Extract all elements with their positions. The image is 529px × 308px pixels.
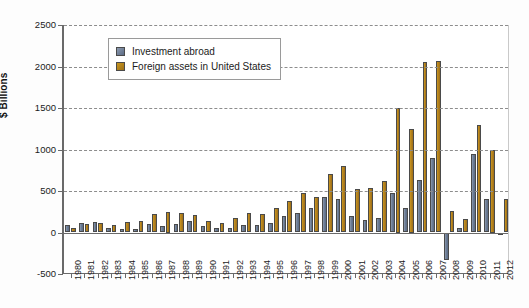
y-tick-label: 2000 <box>22 62 56 72</box>
y-tick-mark <box>58 274 63 275</box>
bar <box>93 222 98 233</box>
bar <box>484 199 489 232</box>
x-tick-label: 1983 <box>113 260 123 280</box>
bar <box>368 188 373 233</box>
x-tick-mark <box>179 273 180 278</box>
x-tick-label: 1996 <box>289 260 299 280</box>
x-tick-label: 2011 <box>492 261 502 280</box>
x-tick-mark <box>125 273 126 278</box>
x-tick-label: 2008 <box>451 260 461 280</box>
bar <box>309 208 314 233</box>
bar <box>201 226 206 233</box>
gridline <box>64 191 508 192</box>
legend-swatch-icon <box>116 47 125 56</box>
bar <box>328 174 333 232</box>
x-tick-label: 2007 <box>438 260 448 280</box>
x-tick-mark <box>152 273 153 278</box>
bar <box>363 220 368 232</box>
bar <box>423 62 428 233</box>
x-tick-label: 1981 <box>86 260 96 280</box>
x-tick-mark <box>368 273 369 278</box>
bar <box>390 193 395 233</box>
legend-label: Investment abroad <box>132 46 215 57</box>
bar <box>147 224 152 232</box>
bar <box>477 125 482 232</box>
y-tick-label: 1500 <box>22 103 56 113</box>
x-tick-label: 2003 <box>384 260 394 280</box>
bar <box>336 199 341 232</box>
x-tick-mark <box>233 273 234 278</box>
x-tick-mark <box>301 273 302 278</box>
x-tick-mark <box>463 273 464 278</box>
bar <box>255 225 260 233</box>
bar <box>179 213 184 232</box>
x-tick-label: 1987 <box>167 260 177 280</box>
bar <box>463 219 468 232</box>
bar <box>436 61 441 233</box>
x-tick-mark <box>341 273 342 278</box>
bar <box>396 108 401 233</box>
bar <box>85 224 90 232</box>
bar <box>220 223 225 232</box>
bar <box>260 214 265 232</box>
gridline <box>64 25 508 26</box>
bar <box>382 181 387 232</box>
bar-chart: -50005001000150020002500 $ Billions 1980… <box>0 0 529 308</box>
bar <box>403 208 408 233</box>
bar <box>301 193 306 233</box>
y-tick-mark <box>58 25 63 26</box>
bar <box>247 213 252 232</box>
bar <box>206 221 211 233</box>
x-tick-mark <box>287 273 288 278</box>
x-tick-label: 1988 <box>181 260 191 280</box>
x-tick-label: 1993 <box>248 260 258 280</box>
bar <box>341 166 346 232</box>
x-tick-label: 1985 <box>140 260 150 280</box>
bar <box>98 223 103 232</box>
bar <box>268 223 273 232</box>
bar <box>376 218 381 232</box>
x-tick-mark <box>409 273 410 278</box>
x-tick-mark <box>71 273 72 278</box>
bar <box>79 223 84 232</box>
x-tick-mark <box>382 273 383 278</box>
zero-axis-line <box>64 233 508 234</box>
y-tick-mark <box>58 67 63 68</box>
bar <box>241 225 246 232</box>
legend-item-foreign-assets: Foreign assets in United States <box>116 59 271 74</box>
bar <box>174 224 179 232</box>
chart-legend: Investment abroad Foreign assets in Unit… <box>108 38 281 80</box>
bar <box>471 154 476 232</box>
y-tick-mark <box>58 191 63 192</box>
bar <box>112 225 117 232</box>
x-tick-label: 1994 <box>262 260 272 280</box>
bar <box>166 212 171 233</box>
x-tick-mark <box>355 273 356 278</box>
y-tick-mark <box>58 150 63 151</box>
bar <box>504 199 509 232</box>
x-tick-label: 2000 <box>343 260 353 280</box>
x-tick-label: 1991 <box>221 260 231 280</box>
bar <box>349 216 354 233</box>
bar <box>417 180 422 232</box>
x-tick-label: 1998 <box>316 260 326 280</box>
x-tick-label: 2010 <box>478 260 488 280</box>
x-tick-label: 2009 <box>465 260 475 280</box>
y-tick-label: 0 <box>22 228 56 238</box>
y-tick-label: -500 <box>22 269 56 279</box>
bar <box>409 129 414 233</box>
y-tick-label: 1000 <box>22 145 56 155</box>
bar <box>444 233 449 260</box>
x-tick-mark <box>422 273 423 278</box>
y-tick-label: 2500 <box>22 20 56 30</box>
x-tick-label: 1997 <box>303 260 313 280</box>
bar <box>274 208 279 233</box>
gridline <box>64 150 508 151</box>
y-tick-label: 500 <box>22 186 56 196</box>
x-tick-label: 1995 <box>275 260 285 280</box>
x-tick-mark <box>98 273 99 278</box>
y-axis-title: $ Billions <box>0 73 9 118</box>
x-tick-mark <box>260 273 261 278</box>
x-tick-label: 2005 <box>411 260 421 280</box>
x-tick-label: 2002 <box>370 260 380 280</box>
